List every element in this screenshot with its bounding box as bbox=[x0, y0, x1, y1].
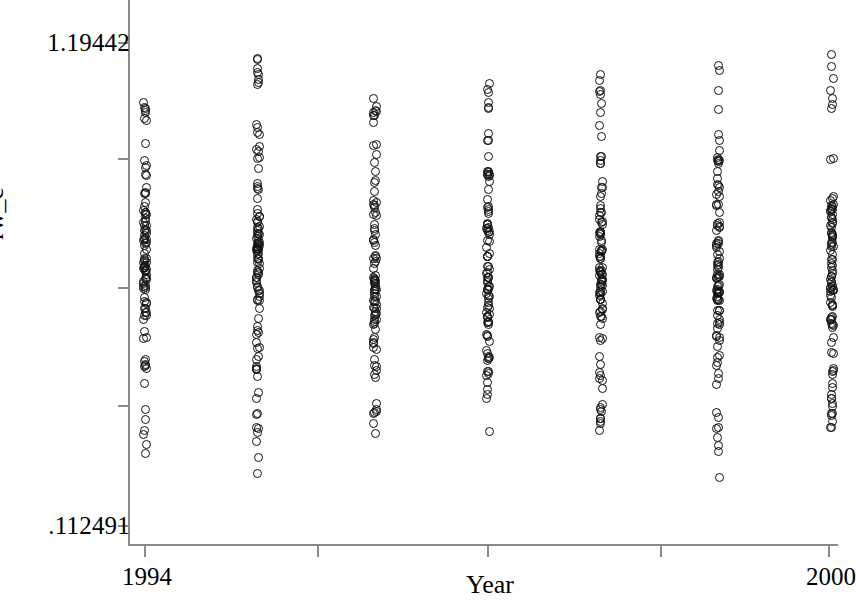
data-point bbox=[483, 318, 492, 327]
data-point bbox=[141, 163, 150, 172]
data-point bbox=[253, 250, 262, 259]
data-point bbox=[141, 217, 150, 226]
data-point bbox=[369, 343, 378, 352]
data-point bbox=[827, 394, 836, 403]
data-point bbox=[715, 296, 724, 305]
data-point bbox=[712, 243, 721, 252]
data-point bbox=[828, 266, 837, 275]
data-point bbox=[252, 120, 261, 129]
data-point bbox=[715, 223, 724, 232]
data-point bbox=[142, 298, 151, 307]
data-point bbox=[253, 258, 262, 267]
data-point bbox=[485, 353, 494, 362]
data-point bbox=[253, 246, 262, 255]
data-point bbox=[828, 399, 837, 408]
data-point bbox=[598, 263, 607, 272]
data-point bbox=[712, 200, 721, 209]
data-point bbox=[595, 374, 604, 383]
data-point bbox=[485, 170, 494, 179]
data-point bbox=[596, 254, 605, 263]
data-point bbox=[597, 246, 606, 255]
data-point bbox=[595, 211, 604, 220]
data-point bbox=[252, 330, 261, 339]
data-point bbox=[596, 280, 605, 289]
data-point bbox=[483, 356, 492, 365]
data-point bbox=[828, 205, 837, 214]
data-point bbox=[140, 263, 149, 272]
data-point bbox=[712, 274, 721, 283]
data-point bbox=[482, 243, 491, 252]
data-point bbox=[826, 283, 835, 292]
data-point bbox=[596, 290, 605, 299]
data-point bbox=[370, 158, 379, 167]
data-point bbox=[828, 379, 837, 388]
data-point bbox=[369, 264, 378, 273]
data-point bbox=[370, 333, 379, 342]
data-point bbox=[484, 104, 493, 113]
data-point bbox=[255, 212, 264, 221]
data-point bbox=[598, 281, 607, 290]
data-point bbox=[254, 229, 263, 238]
data-point bbox=[483, 252, 492, 261]
data-point bbox=[371, 257, 380, 266]
data-point bbox=[715, 336, 724, 345]
data-point bbox=[252, 278, 261, 287]
data-point bbox=[713, 180, 722, 189]
data-point bbox=[597, 218, 606, 227]
data-point bbox=[253, 218, 262, 227]
data-point bbox=[714, 239, 723, 248]
data-point bbox=[482, 371, 491, 380]
data-point bbox=[598, 245, 607, 254]
data-point bbox=[595, 266, 604, 275]
data-point bbox=[828, 100, 837, 109]
data-point bbox=[484, 273, 493, 282]
data-point bbox=[140, 357, 149, 366]
data-point bbox=[595, 308, 604, 317]
data-point bbox=[713, 292, 722, 301]
data-point bbox=[140, 261, 149, 270]
data-point bbox=[715, 318, 724, 327]
data-point bbox=[595, 232, 604, 241]
data-point bbox=[484, 209, 493, 218]
data-point bbox=[715, 306, 724, 315]
data-point bbox=[827, 348, 836, 357]
data-point bbox=[829, 192, 838, 201]
data-point bbox=[252, 362, 261, 371]
data-point bbox=[827, 62, 836, 71]
data-point bbox=[483, 85, 492, 94]
data-point bbox=[254, 70, 263, 79]
data-point bbox=[485, 230, 494, 239]
data-point bbox=[142, 229, 151, 238]
data-point bbox=[139, 264, 148, 273]
data-point bbox=[139, 98, 148, 107]
data-point bbox=[713, 324, 722, 333]
data-point bbox=[828, 300, 837, 309]
data-point bbox=[252, 276, 261, 285]
data-point bbox=[253, 179, 262, 188]
data-point bbox=[483, 276, 492, 285]
data-point bbox=[253, 226, 262, 235]
data-point bbox=[142, 171, 151, 180]
data-point bbox=[714, 86, 723, 95]
data-point bbox=[828, 417, 837, 426]
data-point bbox=[254, 235, 263, 244]
data-point bbox=[713, 250, 722, 259]
data-point bbox=[598, 304, 607, 313]
data-point bbox=[485, 227, 494, 236]
data-point bbox=[370, 319, 379, 328]
data-point bbox=[827, 411, 836, 420]
data-point bbox=[140, 311, 149, 320]
data-point bbox=[253, 326, 262, 335]
data-point bbox=[254, 238, 263, 247]
data-point bbox=[485, 304, 494, 313]
data-point bbox=[482, 346, 491, 355]
data-point bbox=[596, 268, 605, 277]
data-point bbox=[827, 313, 836, 322]
data-point bbox=[254, 388, 263, 397]
data-point bbox=[713, 311, 722, 320]
data-point bbox=[596, 286, 605, 295]
data-point bbox=[142, 238, 151, 247]
data-point bbox=[713, 295, 722, 304]
data-point bbox=[372, 407, 381, 416]
data-point bbox=[714, 105, 723, 114]
